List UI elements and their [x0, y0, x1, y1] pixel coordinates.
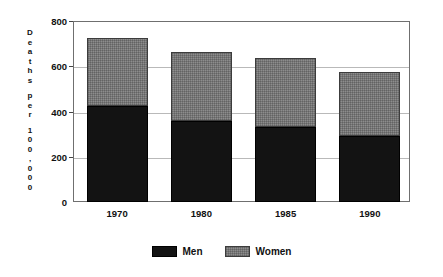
x-axis-tick-label: 1985	[275, 208, 296, 219]
legend: Men Women	[0, 246, 443, 257]
y-axis-title-char: 0	[28, 135, 32, 145]
y-axis-tick-label: 400	[39, 106, 67, 117]
y-axis-title-char: 0	[28, 145, 32, 155]
bar-segment-women[interactable]	[87, 38, 148, 106]
legend-swatch-women-icon	[225, 246, 250, 257]
y-axis-title-char: s	[28, 76, 32, 86]
y-axis-title-char: 0	[28, 183, 32, 193]
bar-segment-men[interactable]	[255, 127, 316, 202]
y-axis-title-char: 1	[28, 126, 32, 136]
y-axis-title-char: 0	[28, 173, 32, 183]
bar-segment-men[interactable]	[171, 121, 232, 202]
y-axis-title-char: p	[28, 91, 33, 101]
legend-label-women: Women	[256, 246, 292, 257]
legend-item-men: Men	[152, 246, 203, 257]
y-axis-title-char: a	[28, 47, 32, 57]
bars-layer	[73, 21, 410, 202]
x-axis-tick-label: 1980	[191, 208, 212, 219]
y-axis-tick-label: 0	[39, 197, 67, 208]
x-axis-tick-label: 1990	[359, 208, 380, 219]
y-axis-title-char: D	[27, 28, 33, 38]
y-axis-title-char: e	[28, 38, 32, 48]
y-axis-title-char: 0	[28, 164, 32, 174]
bar-segment-women[interactable]	[171, 52, 232, 121]
bar-segment-women[interactable]	[339, 72, 400, 136]
x-axis-tick-label: 1970	[107, 208, 128, 219]
y-axis-tick-label: 800	[39, 16, 67, 27]
y-axis-title-char: r	[28, 110, 31, 120]
y-axis-title-char: t	[29, 57, 32, 67]
y-axis-title-char: e	[28, 101, 32, 111]
bar-1970[interactable]	[87, 38, 148, 202]
stacked-bar-chart: D e a t h s p e r 1 0 0 , 0 0 0 02004006…	[0, 0, 443, 277]
legend-label-men: Men	[183, 246, 203, 257]
bar-segment-men[interactable]	[339, 136, 400, 202]
bar-segment-women[interactable]	[255, 58, 316, 127]
legend-item-women: Women	[225, 246, 292, 257]
y-axis-tick-label: 200	[39, 151, 67, 162]
bar-segment-men[interactable]	[87, 106, 148, 202]
y-axis-title-char: h	[28, 66, 33, 76]
bar-1980[interactable]	[171, 52, 232, 202]
y-axis-title: D e a t h s p e r 1 0 0 , 0 0 0	[22, 28, 38, 198]
legend-swatch-men-icon	[152, 246, 177, 257]
y-axis-title-char: ,	[29, 154, 31, 164]
y-axis-tick-label: 600	[39, 61, 67, 72]
bar-1985[interactable]	[255, 58, 316, 202]
bar-1990[interactable]	[339, 72, 400, 202]
